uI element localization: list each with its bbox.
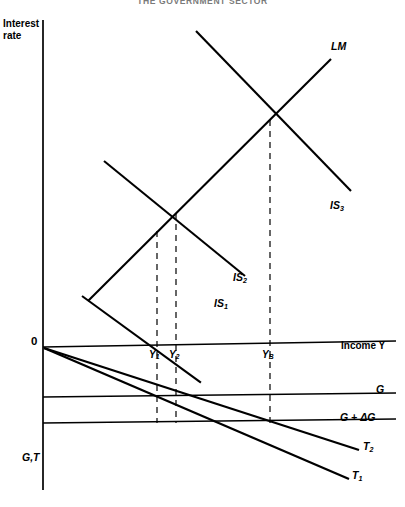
tick-label-yb: YB: [262, 349, 274, 360]
g-level-line: [43, 393, 396, 397]
tick-label-yb-base: Y: [262, 349, 269, 360]
is1-label-sub: 1: [224, 303, 228, 311]
is1-label-base: IS: [214, 297, 224, 309]
is2-curve-label: IS2: [233, 272, 247, 284]
is3-label-base: IS: [330, 199, 340, 211]
is2-label-sub: 2: [243, 277, 247, 285]
t2-curve-label: T2: [363, 441, 373, 453]
y-axis-title-line1: Interest: [3, 18, 39, 29]
lm-curve-label: LM: [331, 41, 346, 53]
tick-label-y2-base: Y: [169, 349, 176, 360]
is3-label-sub: 3: [340, 205, 344, 213]
tick-label-y1: Y1: [149, 349, 159, 360]
is3-curve-label: IS3: [330, 200, 344, 212]
is2-label-base: IS: [233, 271, 243, 283]
t2-label-sub: 2: [369, 446, 373, 454]
t1-label-sub: 1: [358, 475, 362, 483]
tick-label-y2: Y2: [169, 349, 179, 360]
isml-government-sector-figure: THE GOVERNMENT SECTOR Interest rate 0 In…: [0, 0, 405, 507]
tick-label-y1-sub: 1: [156, 353, 160, 360]
t1-curve-label: T1: [352, 470, 362, 482]
is3-curve: [196, 31, 351, 191]
tick-label-yb-sub: B: [269, 353, 274, 360]
y-axis-title-line2: rate: [3, 30, 21, 41]
g-level-label: G: [376, 384, 384, 396]
is2-curve: [104, 161, 245, 276]
tick-label-y1-base: Y: [149, 349, 156, 360]
y-axis-title-bottom: G,T: [22, 452, 40, 464]
t1-tax-line: [44, 348, 349, 479]
is1-curve-label: IS1: [214, 298, 228, 310]
tick-label-y2-sub: 2: [176, 353, 180, 360]
lm-curve: [88, 59, 331, 301]
x-axis-title: Income Y: [341, 340, 385, 351]
g-plus-delta-g-level-label: G + ΔG: [340, 412, 375, 424]
origin-label: 0: [31, 335, 37, 348]
diagram-canvas: [0, 0, 405, 507]
t2-tax-line: [44, 348, 359, 450]
